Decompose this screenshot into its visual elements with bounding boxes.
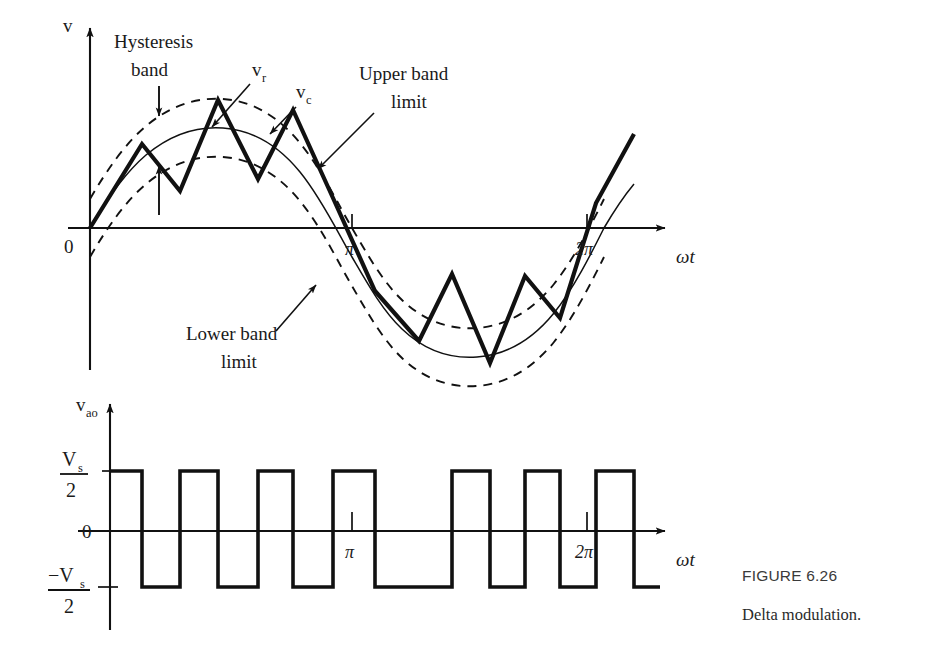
upper-band-limit-label-line2: limit xyxy=(391,91,428,112)
reference-signal-label-subscript: r xyxy=(262,71,267,85)
figure-caption-text: Delta modulation. xyxy=(742,605,861,625)
upper-band-limit-label-line1: Upper band xyxy=(359,63,449,84)
bottom-plot: V s 2 0 −V s 2 v ao π 2π ωt xyxy=(48,394,695,630)
lower-band-limit-leader xyxy=(276,285,316,331)
top-plot-origin-label: 0 xyxy=(64,236,74,257)
figure-root: Hysteresis band v r v c Upper band limit… xyxy=(0,0,929,664)
bottom-plot-positive-level-numerator-subscript: s xyxy=(78,461,83,475)
hysteresis-band-label-line2: band xyxy=(131,59,168,80)
bottom-plot-negative-level-numerator: −V xyxy=(48,564,74,586)
carrier-sine-curve xyxy=(90,128,634,358)
bottom-plot-y-axis-label-subscript: ao xyxy=(86,406,98,420)
switching-output-waveform xyxy=(110,471,660,587)
lower-band-limit-label-line1: Lower band xyxy=(186,323,278,344)
carrier-signal-label: v xyxy=(296,81,306,102)
carrier-signal-label-subscript: c xyxy=(306,93,312,107)
bottom-plot-tick-label-2pi: 2π xyxy=(575,542,594,562)
bottom-plot-zero-level-label: 0 xyxy=(82,521,92,542)
delta-modulation-figure: Hysteresis band v r v c Upper band limit… xyxy=(0,0,929,664)
lower-band-limit-label-line2: limit xyxy=(221,351,258,372)
bottom-plot-positive-level-numerator: V xyxy=(62,448,77,470)
bottom-plot-positive-level-denominator: 2 xyxy=(66,479,76,501)
bottom-plot-negative-level-numerator-subscript: s xyxy=(80,577,85,591)
top-plot-tick-label-2pi: 2π xyxy=(575,239,594,259)
bottom-plot-tick-label-pi: π xyxy=(345,542,355,562)
upper-band-limit-curve xyxy=(90,99,604,329)
top-plot: Hysteresis band v r v c Upper band limit… xyxy=(63,15,695,386)
hysteresis-band-label-line1: Hysteresis xyxy=(114,31,193,52)
bottom-plot-x-axis-label: ωt xyxy=(676,549,695,570)
figure-caption-label: FIGURE 6.26 xyxy=(742,567,837,585)
bottom-plot-y-axis-label: v xyxy=(76,394,86,415)
top-plot-tick-label-pi: π xyxy=(345,239,355,259)
delta-modulated-waveform xyxy=(90,100,634,363)
top-plot-x-axis-label: ωt xyxy=(676,246,695,267)
lower-band-limit-curve xyxy=(90,157,604,387)
bottom-plot-negative-level-denominator: 2 xyxy=(64,595,74,617)
reference-signal-label: v xyxy=(252,59,262,80)
top-plot-y-axis-label: v xyxy=(63,15,73,36)
upper-band-limit-leader xyxy=(318,113,374,169)
